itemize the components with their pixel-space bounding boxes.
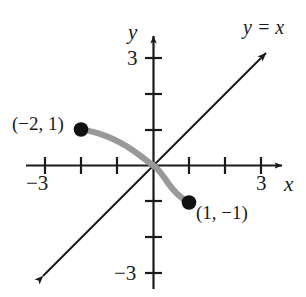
y-axis-label: y xyxy=(128,22,137,43)
endpoint-marker-right xyxy=(182,195,197,210)
x-tick-label-neg3: −3 xyxy=(26,173,48,194)
x-tick-label-3: 3 xyxy=(256,173,267,194)
x-axis-label: x xyxy=(284,174,293,195)
point-label-right: (1, −1) xyxy=(196,203,248,222)
endpoint-marker-left xyxy=(74,122,89,137)
point-label-left: (−2, 1) xyxy=(12,114,64,133)
y-tick-label-neg3: −3 xyxy=(114,263,136,284)
coordinate-plane-figure: y x 3 −3 −3 3 (−2, 1) (1, −1) y = x xyxy=(0,0,306,297)
graph-canvas xyxy=(0,0,306,297)
line-equation-label: y = x xyxy=(243,17,284,37)
y-tick-label-3: 3 xyxy=(127,48,138,69)
